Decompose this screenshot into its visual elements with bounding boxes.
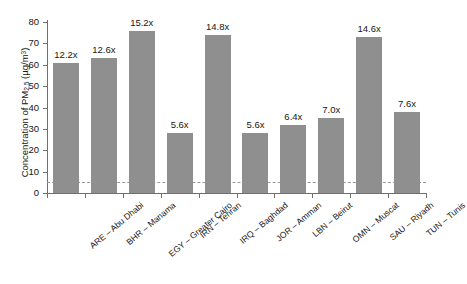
y-tick-label: 40 (17, 102, 39, 113)
y-tick-label: 20 (17, 144, 39, 155)
y-axis-title-superscript: 3 (20, 51, 27, 55)
x-tick-mark (237, 193, 238, 198)
y-tick-label: 30 (17, 123, 39, 134)
y-tick-label: 50 (17, 80, 39, 91)
y-tick-label: 80 (17, 16, 39, 27)
bars-layer: 12.2x12.6x15.2x5.6x14.8x5.6x6.4x7.0x14.6… (47, 22, 426, 193)
bar-value-label: 5.6x (158, 119, 202, 130)
bar-value-label: 7.0x (309, 104, 353, 115)
bar-rect[interactable] (129, 31, 155, 193)
x-tick-mark (312, 193, 313, 198)
bar-rect[interactable] (167, 133, 193, 193)
bar-rect[interactable] (242, 133, 268, 193)
bar-value-label: 7.6x (385, 98, 429, 109)
bar-rect[interactable] (394, 112, 420, 193)
x-tick-mark (426, 193, 427, 198)
x-tick-mark (274, 193, 275, 198)
bar-value-label: 12.6x (82, 44, 126, 55)
bar-rect[interactable] (91, 58, 117, 193)
bar-rect[interactable] (318, 118, 344, 193)
x-tick-mark (350, 193, 351, 198)
bar-value-label: 14.8x (196, 21, 240, 32)
x-axis-label: ARE – Abu Dhabi (88, 200, 146, 251)
bar-rect[interactable] (53, 63, 79, 193)
x-tick-mark (388, 193, 389, 198)
bar-value-label: 14.6x (347, 23, 391, 34)
y-tick-label: 70 (17, 37, 39, 48)
bar-value-label: 15.2x (120, 17, 164, 28)
y-tick-label: 10 (17, 166, 39, 177)
bar-rect[interactable] (356, 37, 382, 193)
x-tick-mark (199, 193, 200, 198)
x-tick-mark (47, 193, 48, 198)
bar-rect[interactable] (280, 125, 306, 193)
x-tick-mark (123, 193, 124, 198)
y-tick-label: 0 (17, 187, 39, 198)
bar-rect[interactable] (205, 35, 231, 193)
x-tick-mark (85, 193, 86, 198)
y-tick-label: 60 (17, 59, 39, 70)
x-tick-mark (161, 193, 162, 198)
